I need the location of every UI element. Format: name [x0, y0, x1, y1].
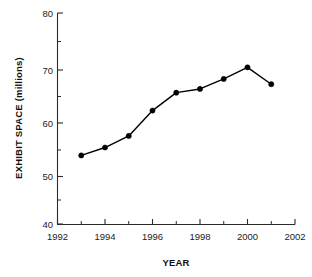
x-tick-label-1994: 1994	[94, 231, 115, 242]
data-point	[102, 145, 107, 150]
y-tick-label-60: 60	[42, 118, 53, 129]
data-point	[150, 108, 155, 113]
data-point	[126, 133, 131, 138]
x-tick-label-2000: 2000	[237, 231, 258, 242]
chart-canvas: 80 70 60 50 40 1992 1994 1996	[0, 0, 312, 277]
y-tick-label-70: 70	[42, 65, 53, 76]
data-point	[221, 76, 226, 81]
y-tick-label-50: 50	[42, 171, 53, 182]
axis-lines	[57, 13, 295, 225]
x-tick-label-2002: 2002	[284, 231, 305, 242]
series-markers	[79, 65, 274, 158]
data-point	[79, 153, 84, 158]
y-axis-major-ticks	[58, 13, 64, 224]
series-line	[81, 67, 271, 155]
data-point	[174, 90, 179, 95]
data-series-exhibit-space	[79, 65, 274, 158]
y-axis-title: EXHIBIT SPACE (millions)	[13, 57, 24, 179]
data-point	[269, 82, 274, 87]
x-tick-label-1998: 1998	[189, 231, 210, 242]
y-tick-label-40: 40	[42, 219, 53, 230]
x-axis-tick-labels: 1992 1994 1996 1998 2000 2002	[47, 231, 306, 242]
line-chart: 80 70 60 50 40 1992 1994 1996	[0, 0, 312, 277]
data-point	[245, 65, 250, 70]
data-point	[197, 86, 202, 91]
x-tick-label-1992: 1992	[47, 231, 68, 242]
y-axis-tick-labels: 80 70 60 50 40	[42, 8, 53, 230]
x-tick-label-1996: 1996	[142, 231, 163, 242]
x-axis-title: YEAR	[162, 257, 189, 268]
y-tick-label-80: 80	[42, 8, 53, 19]
